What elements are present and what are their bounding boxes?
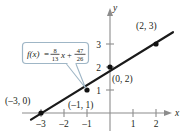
x-tick-label--2: –2 — [58, 119, 69, 129]
formula-fx: f(x) — [27, 49, 40, 59]
point-labels-group: (–3, 0) (–1, 1) (0, 2) (2, 3) — [5, 21, 157, 111]
formula-intercept-den: 26 — [77, 55, 84, 62]
line-graph-svg: –3 –2 –1 1 2 1 2 3 x y (–3, 0) (–1, 1) (… — [0, 0, 188, 140]
point-label-0-2: (0, 2) — [112, 74, 133, 85]
x-axis-label: x — [174, 108, 180, 118]
point-label-2-3: (2, 3) — [136, 21, 157, 32]
y-axis-label: y — [112, 3, 118, 13]
x-tick-label-2: 2 — [154, 119, 159, 129]
formula-slope-den: 13 — [52, 55, 59, 62]
x-tick-label--1: –1 — [81, 119, 92, 129]
point-label--3-0: (–3, 0) — [5, 96, 30, 107]
y-tick-label-3: 3 — [96, 40, 101, 50]
point-label--1-1: (–1, 1) — [68, 100, 93, 111]
x-tick-label--3: –3 — [35, 119, 46, 129]
x-axis-arrow — [164, 110, 172, 116]
x-tick-label-1: 1 — [131, 119, 136, 129]
point-2-3 — [153, 41, 158, 46]
formula-intercept-num: 47 — [77, 47, 84, 54]
formula-equals: = — [44, 49, 49, 59]
y-tick-label-2: 2 — [96, 63, 101, 73]
point-0-2 — [107, 64, 112, 69]
formula-plus: + — [67, 50, 72, 60]
formula-variable: x — [60, 50, 65, 60]
graph-figure: –3 –2 –1 1 2 1 2 3 x y (–3, 0) (–1, 1) (… — [0, 0, 188, 140]
point--3-0 — [38, 110, 43, 115]
callout-tail — [66, 64, 86, 88]
y-tick-label-1: 1 — [96, 86, 101, 96]
formula-slope-num: 8 — [53, 47, 56, 54]
